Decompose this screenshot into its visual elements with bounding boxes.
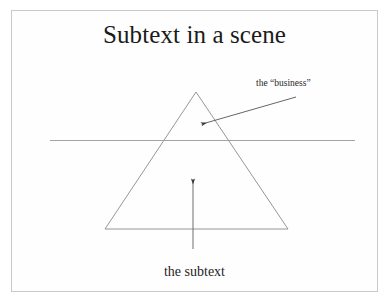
subtext-diagram — [0, 0, 390, 305]
business-label: the “business” — [256, 77, 311, 89]
scene-triangle — [105, 92, 288, 229]
business-arrow — [202, 97, 297, 124]
subtext-label: the subtext — [11, 263, 378, 281]
slide-canvas: Subtext in a scene the “business” the su… — [0, 0, 390, 305]
